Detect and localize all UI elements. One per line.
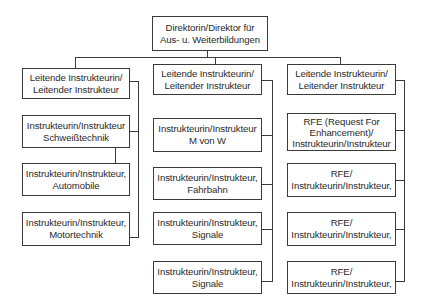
col1-head-line-2: Leitender Instrukteur [33, 84, 119, 96]
col2-child1-line-1: Instrukteurin/Instrukteur [158, 123, 256, 135]
col1-head-line-1: Leitende Instrukteurin/ [30, 72, 123, 84]
col3-tick [396, 130, 405, 131]
col2-tick [262, 135, 273, 136]
col3-child2-line-2: Instrukteurin/Instrukteur, [291, 180, 391, 192]
connector-col2-down [215, 57, 216, 64]
col1-rail [138, 81, 139, 238]
col3-tick [396, 229, 405, 230]
col3-tick [396, 80, 405, 81]
col3-child1-line-2: Enhancement)/ [310, 127, 374, 138]
col3-child4-line-1: RFE/ [331, 266, 352, 278]
col2-tick [262, 281, 273, 282]
col2-child-box: Instrukteurin/Instrukteur, Fahrbahn [153, 167, 262, 200]
col3-child-box: RFE/ Instrukteurin/Instrukteur, [287, 261, 396, 294]
col3-head-line-2: Leitender Instrukteur [299, 80, 385, 92]
connector-col3-down [340, 57, 341, 64]
col2-child1-line-2: M von W [189, 135, 226, 147]
col2-child4-line-2: Signale [192, 278, 223, 290]
col2-child2-line-2: Fahrbahn [187, 184, 227, 196]
col3-child2-line-1: RFE/ [331, 168, 352, 180]
col3-child1-line-1: RFE (Request For [303, 116, 379, 127]
col1-child-box: Instrukteurin/Instrukteur, Automobile [22, 163, 130, 196]
col2-head-line-1: Leitende Instrukteurin/ [161, 68, 254, 80]
root-box-director: Direktorin/Direktor für Aus- u. Weiterbi… [152, 16, 268, 51]
col2-child-box: Instrukteurin/Instrukteur M von W [153, 118, 262, 152]
connector-col1-down [75, 57, 76, 68]
col2-tick [262, 184, 273, 185]
col1-child3-line-2: Motortechnik [49, 229, 103, 241]
col3-head-box: Leitende Instrukteurin/ Leitender Instru… [287, 64, 396, 95]
col2-child2-line-1: Instrukteurin/Instrukteur, [157, 172, 257, 184]
col3-child1-line-3: Instrukteurin/Instrukteur [292, 138, 390, 149]
col1-tick [130, 81, 139, 82]
col1-child2-line-1: Instrukteurin/Instrukteur, [26, 168, 126, 180]
col3-child-box: RFE (Request For Enhancement)/ Instrukte… [287, 113, 396, 151]
root-line-2: Aus- u. Weiterbildungen [160, 34, 260, 46]
col3-head-line-1: Leitende Instrukteurin/ [295, 68, 388, 80]
col1-head-box: Leitende Instrukteurin/ Leitender Instru… [22, 68, 130, 99]
col1-inner-connector [115, 148, 116, 163]
col2-rail [272, 80, 273, 282]
connector-horizontal [75, 57, 341, 58]
col1-child2-line-2: Automobile [53, 180, 100, 192]
col1-child1-line-2: Schweißtechnik [43, 132, 109, 144]
col1-child1-line-1: Instrukteurin/Instrukteur [27, 120, 125, 132]
col2-child3-line-1: Instrukteurin/Instrukteur, [157, 217, 257, 229]
col1-tick [130, 131, 139, 132]
col3-tick [396, 281, 405, 282]
col3-tick [396, 180, 405, 181]
col2-tick [262, 80, 273, 81]
col2-tick [262, 229, 273, 230]
col3-child-box: RFE/ Instrukteurin/Instrukteur, [287, 212, 396, 246]
col3-child-box: RFE/ Instrukteurin/Instrukteur, [287, 163, 396, 197]
col2-head-line-2: Leitender Instrukteur [165, 80, 251, 92]
col3-child3-line-2: Instrukteurin/Instrukteur, [291, 229, 391, 241]
col2-child-box: Instrukteurin/Instrukteur, Signale [153, 212, 262, 245]
col2-child3-line-2: Signale [192, 229, 223, 241]
col2-child4-line-1: Instrukteurin/Instrukteur, [157, 266, 257, 278]
col1-tick [130, 237, 139, 238]
col3-child4-line-2: Instrukteurin/Instrukteur, [291, 278, 391, 290]
col1-child-box: Instrukteurin/Instrukteur Schweißtechnik [22, 115, 130, 148]
col3-child3-line-1: RFE/ [331, 217, 352, 229]
col2-head-box: Leitende Instrukteurin/ Leitender Instru… [153, 64, 262, 95]
col1-child-box: Instrukteurin/Instrukteur, Motortechnik [22, 212, 130, 246]
col2-child-box: Instrukteurin/Instrukteur, Signale [153, 261, 262, 294]
col1-child3-line-1: Instrukteurin/Instrukteur, [26, 217, 126, 229]
root-line-1: Direktorin/Direktor für [166, 22, 255, 34]
